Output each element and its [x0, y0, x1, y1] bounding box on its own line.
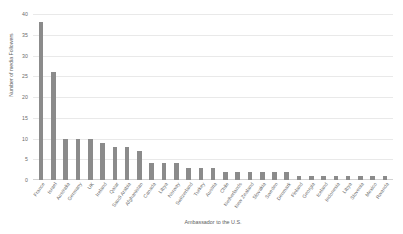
bar-slot [158, 14, 170, 180]
bar-slot [121, 14, 133, 180]
bar[interactable] [211, 168, 216, 180]
bar[interactable] [346, 176, 351, 180]
bar-slot [367, 14, 379, 180]
y-tick-label: 5 [25, 156, 28, 162]
bar[interactable] [199, 168, 204, 180]
bar-slot [170, 14, 182, 180]
bar-slot [256, 14, 268, 180]
bar-slot [305, 14, 317, 180]
y-tick-label: 25 [22, 73, 28, 79]
y-tick-label: 30 [22, 53, 28, 59]
x-label-slot: France [35, 181, 47, 217]
x-tick-label: Turkey [192, 181, 206, 197]
bar[interactable] [309, 176, 314, 180]
y-tick-label: 20 [22, 94, 28, 100]
x-label-slot: Denmark [281, 181, 293, 217]
x-label-slot: Libya [158, 181, 170, 217]
y-tick-label: 15 [22, 115, 28, 121]
y-tick-label: 10 [22, 136, 28, 142]
x-label-slot: Finland [293, 181, 305, 217]
bar-slot [219, 14, 231, 180]
bar-slot [293, 14, 305, 180]
bar[interactable] [383, 176, 388, 180]
x-tick-label: UK [86, 181, 95, 190]
bar-chart: Number of media Followers 05101520253035… [0, 0, 403, 234]
x-label-slot: Indonesia [330, 181, 342, 217]
bar-slot [330, 14, 342, 180]
x-label-slot: Slovakia [256, 181, 268, 217]
bar[interactable] [88, 139, 93, 181]
x-tick-label: Austria [204, 181, 218, 197]
bar-slot [84, 14, 96, 180]
x-tick-label: Chile [219, 181, 231, 194]
bar-slot [72, 14, 84, 180]
bar-slot [342, 14, 354, 180]
bar[interactable] [63, 139, 68, 181]
bar-slot [317, 14, 329, 180]
bar[interactable] [272, 172, 277, 180]
bar[interactable] [100, 143, 105, 180]
y-tick-label: 40 [22, 11, 28, 17]
bar[interactable] [248, 172, 253, 180]
bar[interactable] [260, 172, 265, 180]
x-label-slot: Slovenia [354, 181, 366, 217]
bar[interactable] [113, 147, 118, 180]
x-label-slot: Rwanda [379, 181, 391, 217]
bar-slot [35, 14, 47, 180]
bar[interactable] [76, 139, 81, 181]
x-label-slot: Georgia [305, 181, 317, 217]
bar[interactable] [321, 176, 326, 180]
bar-slot [244, 14, 256, 180]
bar[interactable] [358, 176, 363, 180]
bar[interactable] [223, 172, 228, 180]
bar-slot [354, 14, 366, 180]
bar[interactable] [334, 176, 339, 180]
bar-slot [281, 14, 293, 180]
bar-slot [47, 14, 59, 180]
y-tick-label: 35 [22, 32, 28, 38]
y-tick-label: 0 [25, 177, 28, 183]
x-axis-title: Ambassador to the U.S. [33, 219, 393, 225]
x-label-slot: Canada [146, 181, 158, 217]
bar-slot [232, 14, 244, 180]
bar[interactable] [51, 72, 56, 180]
bar[interactable] [125, 147, 130, 180]
bar[interactable] [162, 163, 167, 180]
bar-slot [60, 14, 72, 180]
bar[interactable] [174, 163, 179, 180]
bar-slot [109, 14, 121, 180]
x-label-slot: Turkey [195, 181, 207, 217]
bar[interactable] [149, 163, 154, 180]
bar-slot [133, 14, 145, 180]
bar-slot [207, 14, 219, 180]
bar-slot [268, 14, 280, 180]
bar-slot [146, 14, 158, 180]
bar-slot [96, 14, 108, 180]
x-tick-label: Ireland [94, 181, 108, 197]
bar[interactable] [39, 22, 44, 180]
bar-series [33, 14, 393, 180]
bar[interactable] [370, 176, 375, 180]
bar[interactable] [186, 168, 191, 180]
bar[interactable] [284, 172, 289, 180]
y-axis-ticks: 0510152025303540 [0, 14, 31, 180]
bar[interactable] [297, 176, 302, 180]
x-label-slot: Ireland [96, 181, 108, 217]
x-label-slot: Switzerland [182, 181, 194, 217]
bar-slot [182, 14, 194, 180]
x-label-slot: UK [84, 181, 96, 217]
x-label-slot: Germany [72, 181, 84, 217]
bar[interactable] [137, 151, 142, 180]
bar[interactable] [235, 172, 240, 180]
bar-slot [379, 14, 391, 180]
x-label-slot: Mexico [367, 181, 379, 217]
x-tick-label: France [32, 181, 46, 197]
x-axis-ticks: FranceIsraelAustraliaGermanyUKIrelandQat… [33, 181, 393, 217]
plot-area [33, 14, 393, 180]
x-label-slot: Austria [207, 181, 219, 217]
bar-slot [195, 14, 207, 180]
x-label-slot: Afghanistan [133, 181, 145, 217]
